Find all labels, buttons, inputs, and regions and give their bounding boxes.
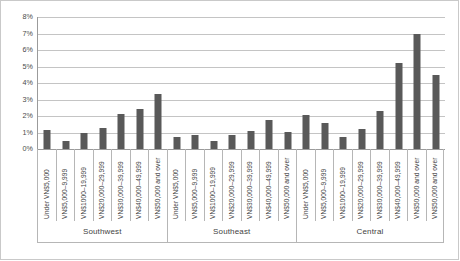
x-tick-cell: VN$30,000–39,999 [370,149,389,221]
bar-slot [223,17,242,149]
bars-layer [38,17,445,149]
x-tick-label: VN$5,000–9,999 [191,169,198,219]
x-tick-cell: VN$1000–19,999 [74,149,93,221]
y-tick-label: 3% [5,96,33,104]
bar-slot [353,17,372,149]
x-tick-label: VN$50,000 and over [154,158,161,219]
x-tick-cell: VN$40,000–49,999 [389,149,408,221]
y-tick-label: 5% [5,63,33,71]
plot-area [37,17,444,149]
bar-slot [75,17,94,149]
bar-slot [112,17,131,149]
bar[interactable] [395,63,402,149]
bar-slot [205,17,224,149]
bar-slot [371,17,390,149]
x-tick-label: VN$1000–19,999 [209,167,216,219]
x-tick-cell: VN$30,000–39,999 [241,149,260,221]
bar[interactable] [247,131,254,149]
chart-canvas: 8%7%6%5%4%3%2%1%0% Under VN$5,000VN$5,00… [1,1,460,261]
x-tick-label: VN$50,000 and over [413,158,420,219]
y-tick-label: 7% [5,30,33,38]
group-label-cell: Southeast [167,221,297,243]
group-label: Central [357,227,384,236]
x-tick-cell: Under VN$5,000 [296,149,315,221]
bar[interactable] [303,115,310,149]
bar[interactable] [432,75,439,149]
bar-slot [186,17,205,149]
x-tick-cell: VN$5,000–9,999 [56,149,75,221]
bar-slot [38,17,57,149]
y-axis: 8%7%6%5%4%3%2%1%0% [5,1,33,261]
x-tick-cell: VN$50,000 and over [426,149,445,221]
bar[interactable] [284,132,291,149]
bar[interactable] [340,137,347,149]
bar-slot [408,17,427,149]
x-tick-label: VN$20,000–29,999 [357,161,364,219]
x-tick-label: VN$20,000–29,999 [228,161,235,219]
x-tick-label: VN$50,000 and over [431,158,438,219]
bar-slot [390,17,409,149]
x-tick-label: VN$40,000–49,999 [265,161,272,219]
bar-slot [131,17,150,149]
bar[interactable] [136,109,143,149]
bar-slot [334,17,353,149]
bar[interactable] [210,141,217,149]
x-tick-label: VN$50,000 and over [283,158,290,219]
x-tick-cell: VN$50,000 and over [407,149,426,221]
x-tick-cell: VN$1000–19,999 [204,149,223,221]
x-tick-cell: VN$50,000 and over [278,149,297,221]
bar-slot [168,17,187,149]
x-tick-cell: VN$20,000–29,999 [93,149,112,221]
x-tick-label: VN$1000–19,999 [80,167,87,219]
x-tick-cell: VN$5,000–9,999 [185,149,204,221]
bar[interactable] [414,34,421,149]
x-tick-label: Under VN$5,000 [172,169,179,219]
bar-slot [427,17,446,149]
y-tick-label: 6% [5,46,33,54]
x-tick-cell: VN$30,000–39,999 [111,149,130,221]
bar[interactable] [173,137,180,149]
bar-slot [260,17,279,149]
x-tick-cell: VN$20,000–29,999 [222,149,241,221]
group-label-cell: Southwest [37,221,167,243]
bar[interactable] [81,133,88,149]
y-tick-label: 2% [5,112,33,120]
x-tick-cell: VN$50,000 and over [148,149,167,221]
x-tick-cell: VN$1000–19,999 [333,149,352,221]
x-tick-cell: VN$20,000–29,999 [352,149,371,221]
x-tick-label: VN$30,000–39,999 [117,161,124,219]
bar[interactable] [377,111,384,149]
bar[interactable] [62,141,69,149]
x-tick-cell: VN$40,000–49,999 [259,149,278,221]
bar[interactable] [321,123,328,149]
x-tick-label: VN$40,000–49,999 [135,161,142,219]
bar[interactable] [266,120,273,149]
y-tick-label: 0% [5,145,33,153]
x-tick-label: VN$20,000–29,999 [98,161,105,219]
bar-slot [57,17,76,149]
x-tick-label: VN$30,000–39,999 [246,161,253,219]
x-tick-label: VN$1000–19,999 [339,167,346,219]
bar[interactable] [44,130,51,149]
x-tick-cell: Under VN$5,000 [37,149,56,221]
bar[interactable] [155,94,162,149]
x-tick-cell: VN$5,000–9,999 [315,149,334,221]
x-tick-cell: VN$40,000–49,999 [130,149,149,221]
group-label: Southwest [83,227,122,236]
y-tick-label: 8% [5,13,33,21]
x-axis-category-labels: Under VN$5,000VN$5,000–9,999VN$1000–19,9… [37,149,444,221]
x-tick-cell: Under VN$5,000 [167,149,186,221]
bar[interactable] [192,135,199,149]
x-axis-group-labels: SouthwestSoutheastCentral [37,221,444,243]
bar[interactable] [229,135,236,149]
bar[interactable] [358,129,365,149]
bar-slot [149,17,168,149]
bar-slot [242,17,261,149]
y-tick-label: 1% [5,129,33,137]
bar[interactable] [99,128,106,149]
group-label-cell: Central [296,221,444,243]
y-tick-label: 4% [5,79,33,87]
bar[interactable] [118,114,125,149]
x-tick-label: Under VN$5,000 [302,169,309,219]
x-tick-label: VN$5,000–9,999 [61,169,68,219]
